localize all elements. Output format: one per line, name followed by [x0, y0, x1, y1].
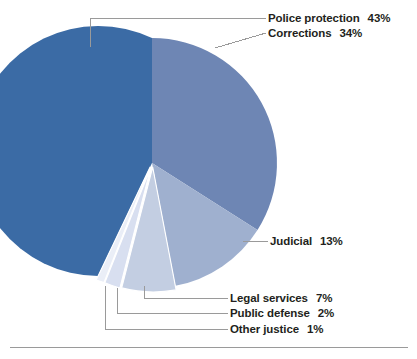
callout-corrections[interactable]: Corrections34%: [268, 27, 362, 39]
callout-judicial[interactable]: Judicial13%: [270, 235, 343, 247]
callout-police-protection[interactable]: Police protection43%: [268, 12, 390, 24]
leader-line-corrections: [215, 33, 266, 48]
callout-judicial-value: 13%: [320, 235, 343, 247]
callout-public-defense[interactable]: Public defense2%: [230, 307, 334, 319]
callout-public-defense-value: 2%: [318, 307, 334, 319]
callout-other-justice-label: Other justice: [230, 323, 299, 335]
pie-chart-figure: Police protection43% Corrections34% Judi…: [0, 0, 417, 359]
callout-legal-services-label: Legal services: [230, 292, 308, 304]
pie-chart-svg: [0, 0, 417, 359]
callout-corrections-label: Corrections: [268, 27, 331, 39]
callout-other-justice-value: 1%: [307, 323, 323, 335]
callout-police-protection-value: 43%: [368, 12, 391, 24]
callout-police-protection-label: Police protection: [268, 12, 360, 24]
callout-corrections-value: 34%: [339, 27, 362, 39]
leader-line-public-defense: [117, 288, 228, 314]
callout-judicial-label: Judicial: [270, 235, 312, 247]
callout-legal-services-value: 7%: [316, 292, 332, 304]
leader-line-other-justice: [105, 286, 228, 330]
callout-public-defense-label: Public defense: [230, 307, 310, 319]
callout-legal-services[interactable]: Legal services7%: [230, 292, 332, 304]
callout-other-justice[interactable]: Other justice1%: [230, 323, 323, 335]
